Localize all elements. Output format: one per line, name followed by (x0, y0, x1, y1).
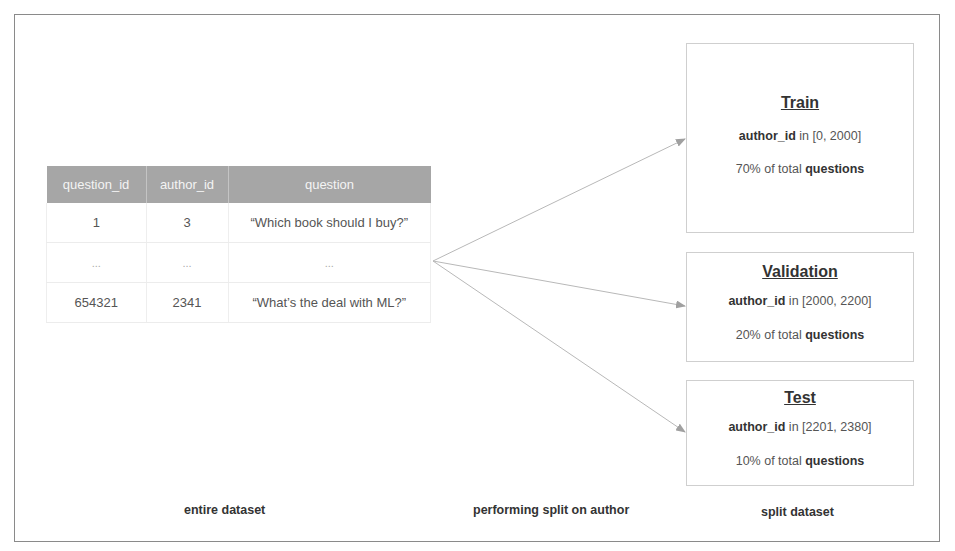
split-range: author_id in [2000, 2200] (687, 294, 913, 308)
split-range: author_id in [2201, 2380] (687, 420, 913, 434)
split-box-validation: Validation author_id in [2000, 2200] 20%… (686, 252, 914, 362)
caption-performing-split: performing split on author (473, 503, 629, 517)
split-percentage: 20% of total questions (687, 328, 913, 342)
arrow-to-train (433, 139, 685, 261)
split-box-test: Test author_id in [2201, 2380] 10% of to… (686, 380, 914, 486)
split-title: Train (687, 94, 913, 112)
arrow-to-validation (433, 261, 685, 306)
split-range: author_id in [0, 2000] (687, 129, 913, 143)
caption-split-dataset: split dataset (761, 505, 834, 519)
split-percentage: 70% of total questions (687, 162, 913, 176)
arrow-to-test (433, 261, 685, 432)
split-box-train: Train author_id in [0, 2000] 70% of tota… (686, 43, 914, 233)
split-title: Test (687, 389, 913, 407)
caption-entire-dataset: entire dataset (184, 503, 265, 517)
split-percentage: 10% of total questions (687, 454, 913, 468)
split-title: Validation (687, 263, 913, 281)
